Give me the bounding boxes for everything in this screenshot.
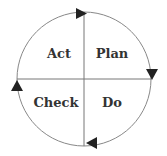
- quadrant-label-do: Do: [102, 96, 122, 109]
- arrow-up-icon: [11, 80, 23, 91]
- arrow-down-icon: [146, 69, 158, 80]
- arrow-left-icon: [86, 137, 97, 149]
- pdca-diagram: Act Plan Check Do: [0, 0, 167, 156]
- pdca-cycle-graphic: [0, 0, 167, 156]
- arrow-right-icon: [76, 8, 87, 19]
- quadrant-label-act: Act: [47, 47, 71, 60]
- quadrant-label-plan: Plan: [96, 47, 129, 60]
- quadrant-label-check: Check: [34, 96, 79, 109]
